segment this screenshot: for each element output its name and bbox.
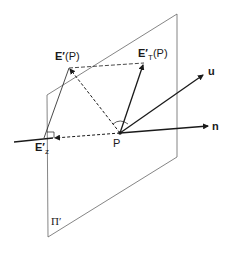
point-p bbox=[118, 131, 122, 135]
right-angle-marker-ez bbox=[47, 132, 54, 138]
label-u: u bbox=[208, 65, 215, 77]
label-e-z: E′z bbox=[35, 141, 49, 156]
label-e-z-main: E′ bbox=[35, 141, 45, 153]
vector-e-p bbox=[70, 69, 120, 133]
label-e-p-main: E′ bbox=[55, 50, 65, 62]
vector-e-t bbox=[120, 65, 143, 133]
label-e-t: E′T(P) bbox=[138, 47, 168, 62]
construction-line-ep-to-ez bbox=[44, 68, 69, 138]
label-plane: Π′ bbox=[51, 215, 61, 227]
right-angle-marker-p bbox=[113, 121, 128, 124]
label-e-t-main: E′ bbox=[138, 47, 148, 59]
label-e-p-suffix: (P) bbox=[65, 50, 80, 62]
label-e-p: E′(P) bbox=[55, 50, 80, 62]
vector-n bbox=[120, 126, 208, 133]
vector-u bbox=[120, 75, 203, 133]
label-p: P bbox=[113, 137, 120, 149]
label-n: n bbox=[212, 120, 219, 132]
construction-line-ep-to-et bbox=[69, 63, 144, 68]
diagram-canvas: P n u E′(P) E′T(P) E′z Π′ bbox=[0, 0, 230, 254]
vector-e-z bbox=[55, 133, 120, 138]
label-e-t-suffix: (P) bbox=[153, 47, 168, 59]
label-e-z-sub: z bbox=[45, 147, 49, 156]
